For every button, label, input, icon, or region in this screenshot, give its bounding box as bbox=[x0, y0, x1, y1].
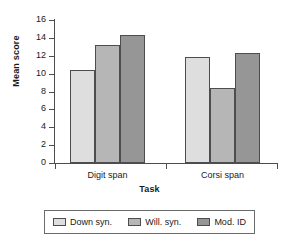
bar bbox=[185, 57, 210, 163]
legend-label: Mod. ID bbox=[214, 217, 246, 227]
y-tick-label: 2 bbox=[22, 140, 46, 149]
x-tick bbox=[55, 164, 56, 169]
bar bbox=[235, 53, 260, 163]
y-tick-label: 6 bbox=[22, 104, 46, 113]
y-tick-label: 0 bbox=[22, 158, 46, 167]
y-tick bbox=[49, 38, 54, 39]
legend-label: Will. syn. bbox=[145, 217, 181, 227]
y-tick bbox=[49, 20, 54, 21]
legend-swatch-icon bbox=[53, 218, 66, 226]
y-tick bbox=[49, 74, 54, 75]
y-tick-label: 12 bbox=[22, 51, 46, 60]
y-tick bbox=[49, 56, 54, 57]
chart-legend: Down syn. Will. syn. Mod. ID bbox=[44, 210, 255, 234]
y-tick bbox=[49, 163, 54, 164]
y-tick bbox=[49, 145, 54, 146]
bar bbox=[70, 70, 95, 163]
y-tick bbox=[49, 127, 54, 128]
y-tick bbox=[49, 109, 54, 110]
legend-item[interactable]: Will. syn. bbox=[128, 217, 181, 227]
y-tick-label: 16 bbox=[22, 15, 46, 24]
y-tick bbox=[49, 92, 54, 93]
x-axis-title: Task bbox=[0, 184, 299, 194]
legend-label: Down syn. bbox=[70, 217, 112, 227]
x-category-label: Corsi span bbox=[178, 170, 268, 180]
bar bbox=[210, 88, 235, 163]
y-axis-title: Mean score bbox=[11, 21, 21, 101]
legend-item[interactable]: Mod. ID bbox=[197, 217, 246, 227]
y-tick-label: 4 bbox=[22, 122, 46, 131]
x-category-label: Digit span bbox=[63, 170, 153, 180]
x-tick bbox=[277, 164, 278, 169]
x-tick bbox=[166, 164, 167, 169]
y-tick-label: 8 bbox=[22, 87, 46, 96]
y-tick-label: 14 bbox=[22, 33, 46, 42]
bar bbox=[95, 45, 120, 163]
y-tick-label: 10 bbox=[22, 69, 46, 78]
legend-item[interactable]: Down syn. bbox=[53, 217, 112, 227]
y-axis-line bbox=[54, 19, 55, 164]
bar-chart-figure: Mean score 0246810121416 Digit spanCorsi… bbox=[0, 0, 299, 247]
legend-swatch-icon bbox=[128, 218, 141, 226]
bar bbox=[120, 35, 145, 163]
legend-swatch-icon bbox=[197, 218, 210, 226]
